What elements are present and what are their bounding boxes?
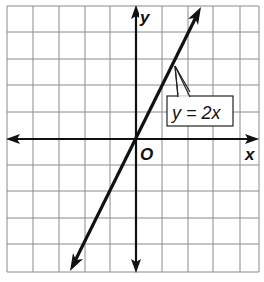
- equation-callout: y = 2x: [167, 66, 233, 126]
- origin-label: O: [140, 145, 153, 164]
- x-axis-label: x: [244, 145, 256, 164]
- y-axis-label: y: [139, 8, 151, 27]
- equation-label: y = 2x: [170, 103, 222, 123]
- coordinate-plane: y = 2x y x O: [0, 0, 264, 282]
- axes: [6, 5, 259, 273]
